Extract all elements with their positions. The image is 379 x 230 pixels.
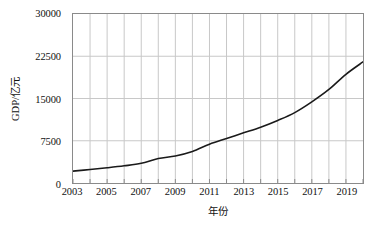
x-tick-label: 2015: [268, 186, 289, 197]
y-tick-label: 15000: [35, 93, 61, 104]
x-tick-label: 2019: [337, 186, 358, 197]
x-axis-title: 年份: [208, 203, 228, 218]
y-tick-label: 22500: [35, 50, 61, 61]
x-tick-label: 2005: [96, 186, 117, 197]
chart-page: 07500150002250030000 GDP/亿元 200320052007…: [0, 0, 379, 230]
x-tick-label: 2003: [62, 186, 83, 197]
x-tick-label: 2013: [233, 186, 254, 197]
y-tick-label: 7500: [40, 136, 61, 147]
gdp-line-series: [73, 14, 363, 183]
x-axis-tick-labels: 200320052007200920112013201520172019: [0, 186, 379, 202]
y-axis-title: GDP/亿元: [7, 77, 22, 121]
y-tick-label: 30000: [35, 8, 61, 19]
x-tick-label: 2011: [199, 186, 219, 197]
x-tick-label: 2009: [165, 186, 186, 197]
x-tick-label: 2007: [130, 186, 151, 197]
plot-area: [72, 13, 364, 184]
x-tick-label: 2017: [302, 186, 323, 197]
gdp-line-path: [73, 62, 363, 171]
